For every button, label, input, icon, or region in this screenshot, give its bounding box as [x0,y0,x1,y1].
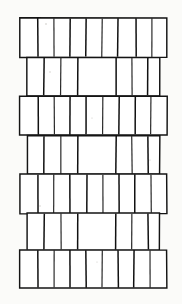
course-5 [20,174,167,214]
course-2 [27,57,160,96]
course-outline [20,174,167,214]
course-outline [20,96,168,135]
masonry-pattern-svg [0,0,182,304]
course-outline [27,213,159,250]
paper-speck [91,117,92,118]
masonry-pattern-figure [0,0,182,304]
courses-group [20,18,168,288]
course-outline [20,250,167,288]
course-6 [27,213,159,250]
course-outline [20,18,167,58]
paper-speck [45,23,47,25]
course-1 [20,18,167,58]
paper-speck [49,71,50,72]
course-3 [20,96,168,135]
course-4 [27,135,159,174]
paper-speck [149,159,150,160]
paper-speck [39,205,40,206]
course-7 [20,250,167,288]
course-outline [27,57,160,96]
paper-speck [96,261,97,262]
course-outline [27,135,159,174]
